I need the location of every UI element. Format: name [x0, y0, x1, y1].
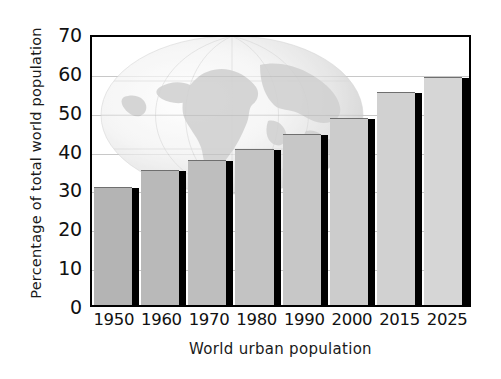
bar — [141, 170, 179, 305]
bar — [377, 92, 415, 305]
bar-item — [375, 37, 422, 305]
bar-shadow-right — [368, 119, 375, 306]
x-axis-tick-labels: 19501960197019801990200020152025 — [90, 310, 471, 329]
y-axis-tick-label: 0 — [34, 296, 82, 318]
bar-item — [233, 37, 280, 305]
bar-item — [186, 37, 233, 305]
bar-item — [422, 37, 469, 305]
y-axis-tick-label: 10 — [34, 257, 82, 279]
x-axis-tick-label: 1960 — [138, 310, 186, 329]
y-axis-tick-label: 30 — [34, 179, 82, 201]
bar-shadow-right — [415, 93, 422, 305]
bar-item — [92, 37, 139, 305]
bar — [94, 187, 132, 305]
bar-chart-figure: Percentage of total world population 010… — [0, 0, 501, 379]
y-axis-tick-labels: 010203040506070 — [34, 0, 82, 379]
x-axis-tick-label: 1950 — [90, 310, 138, 329]
x-axis-tick-label: 1970 — [185, 310, 233, 329]
bar-shadow-right — [226, 161, 233, 305]
x-axis-title: World urban population — [90, 340, 471, 358]
x-axis-tick-label: 1990 — [281, 310, 329, 329]
bar-item — [328, 37, 375, 305]
bar-shadow-right — [462, 78, 469, 305]
bar-shadow-right — [274, 150, 281, 305]
y-axis-tick-label: 50 — [34, 102, 82, 124]
bar-item — [281, 37, 328, 305]
bar-item — [139, 37, 186, 305]
bar — [283, 134, 321, 305]
bar — [188, 160, 226, 305]
x-axis-tick-label: 1980 — [233, 310, 281, 329]
y-axis-tick-label: 20 — [34, 218, 82, 240]
bar-shadow-right — [132, 188, 139, 305]
x-axis-tick-label: 2000 — [328, 310, 376, 329]
plot-area — [90, 35, 471, 307]
bar — [424, 77, 462, 305]
bar-shadow-right — [179, 171, 186, 305]
bar-shadow-right — [321, 135, 328, 305]
bar-series — [92, 37, 469, 305]
y-axis-tick-label: 60 — [34, 63, 82, 85]
bar — [330, 118, 368, 306]
x-axis-tick-label: 2025 — [423, 310, 471, 329]
y-axis-tick-label: 40 — [34, 141, 82, 163]
bar — [235, 149, 273, 305]
y-axis-tick-label: 70 — [34, 24, 82, 46]
x-axis-tick-label: 2015 — [376, 310, 424, 329]
